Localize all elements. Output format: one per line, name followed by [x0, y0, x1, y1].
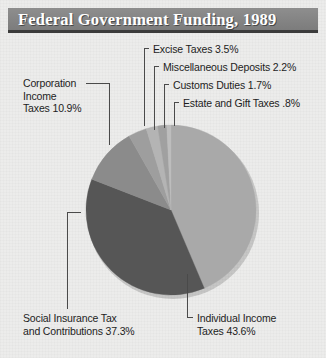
- pie-chart: [78, 117, 264, 303]
- chart-inner-area: Federal Government Funding, 1989: [5, 4, 321, 354]
- slice-label-estate-and-gift-taxes: Estate and Gift Taxes .8%: [183, 97, 300, 110]
- slice-label-corporation-line-3: Taxes 10.9%: [23, 102, 81, 115]
- pie-slice-group: [86, 125, 256, 295]
- slice-label-excise-taxes: Excise Taxes 3.5%: [153, 43, 238, 56]
- slice-label-individual-line-2: Taxes 43.6%: [197, 325, 276, 338]
- title-banner: Federal Government Funding, 1989: [8, 8, 318, 33]
- slice-label-corporation-line-1: Corporation: [23, 77, 81, 90]
- chart-page: Federal Government Funding, 1989: [0, 0, 326, 358]
- slice-label-social-line-2: and Contributions 37.3%: [23, 325, 135, 338]
- slice-label-customs-duties: Customs Duties 1.7%: [173, 79, 271, 92]
- slice-label-miscellaneous-deposits: Miscellaneous Deposits 2.2%: [163, 61, 296, 74]
- leader-line-excise: [144, 48, 149, 126]
- slice-label-individual-income-taxes: Individual Income Taxes 43.6%: [197, 312, 276, 337]
- slice-label-social-line-1: Social Insurance Tax: [23, 312, 135, 325]
- slice-label-social-insurance-tax: Social Insurance Tax and Contributions 3…: [23, 312, 135, 337]
- slice-label-corporation-line-2: Income: [23, 90, 81, 103]
- slice-label-individual-line-1: Individual Income: [197, 312, 276, 325]
- page-title: Federal Government Funding, 1989: [18, 10, 276, 30]
- slice-label-corporation-income-taxes: Corporation Income Taxes 10.9%: [23, 77, 81, 115]
- pie-chart-svg: [78, 117, 264, 303]
